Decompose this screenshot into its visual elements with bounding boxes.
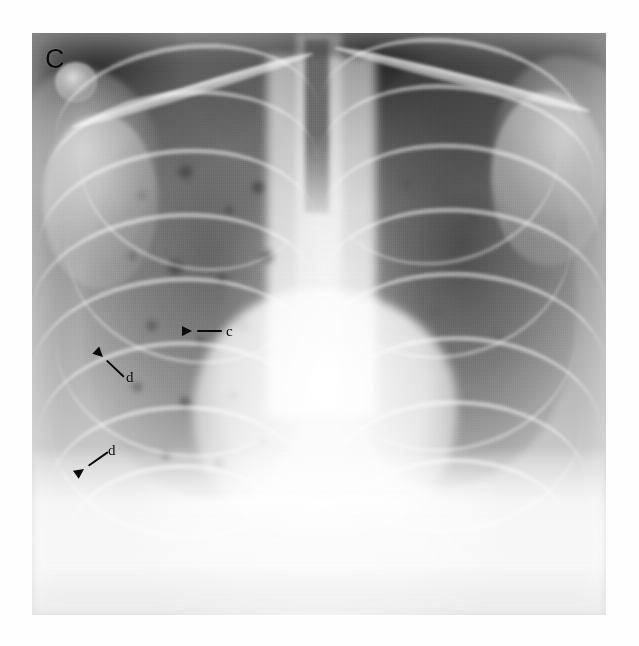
panel-letter-label: C — [45, 46, 65, 73]
figure-panel-c: C c d d — [0, 0, 639, 646]
chest-radiograph-image — [32, 33, 606, 615]
